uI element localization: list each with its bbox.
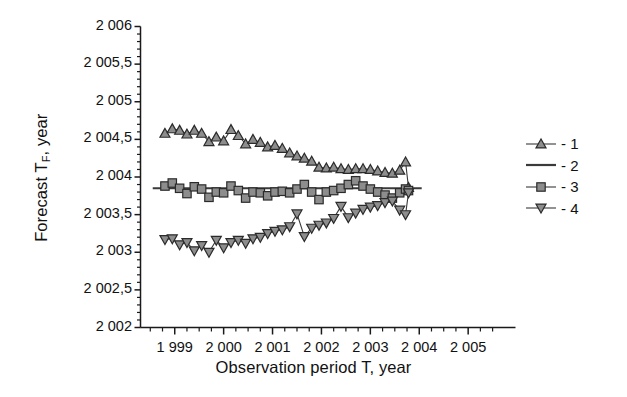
- legend-label-3: - 3: [561, 178, 579, 195]
- series-4: [160, 189, 414, 257]
- y-tick-label: 2 005,5: [28, 54, 132, 70]
- y-tick-label: 2 005: [28, 92, 132, 108]
- y-tick-label: 2 002,5: [28, 280, 132, 296]
- legend-label-4: - 4: [561, 200, 579, 217]
- y-tick-label: 2 006: [28, 17, 132, 33]
- legend-symbol-triangle-up-icon: [524, 135, 558, 153]
- legend-item-2: - 2: [524, 155, 579, 177]
- legend-item-3: - 3: [524, 176, 579, 198]
- y-tick-label: 2 003,5: [28, 205, 132, 221]
- x-axis-title: Observation period T, year: [0, 358, 627, 377]
- y-tick-label: 2 004,5: [28, 129, 132, 145]
- legend-item-4: - 4: [524, 198, 579, 220]
- x-tick-label: 2 005: [428, 339, 508, 355]
- y-tick-label: 2 002: [28, 318, 132, 334]
- legend-symbol-square-icon: [524, 178, 558, 196]
- y-tick-label: 2 004: [28, 167, 132, 183]
- legend-label-2: - 2: [561, 157, 579, 174]
- series-3: [161, 177, 413, 204]
- legend-item-1: - 1: [524, 133, 579, 155]
- chart-legend: - 1- 2- 3- 4: [524, 133, 579, 219]
- y-tick-label: 2 003: [28, 242, 132, 258]
- series-1: [160, 124, 414, 192]
- legend-symbol-none-icon: [524, 156, 558, 174]
- chart-figure: Forecast TF, year Observation period T, …: [0, 0, 627, 397]
- legend-symbol-triangle-down-icon: [524, 199, 558, 217]
- legend-label-1: - 1: [561, 135, 579, 152]
